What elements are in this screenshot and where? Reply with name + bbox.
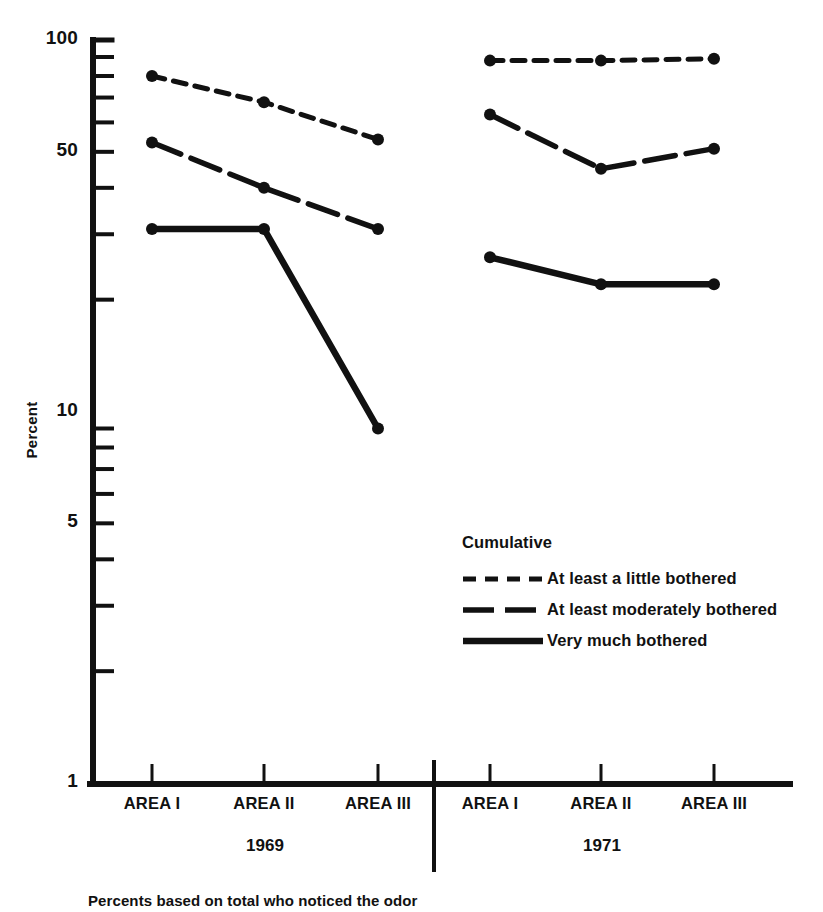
- legend-items: At least a little botheredAt least moder…: [462, 563, 814, 656]
- data-series-group: [146, 53, 720, 435]
- chart-figure: Percent 100501051 AREA IAREA IIAREA IIIA…: [0, 0, 823, 912]
- data-point: [258, 223, 270, 235]
- data-point: [146, 136, 158, 148]
- legend-title: Cumulative: [462, 533, 814, 552]
- data-point: [372, 422, 384, 434]
- data-point: [595, 278, 607, 290]
- legend-swatch-short-dash: [462, 572, 544, 586]
- data-point: [595, 163, 607, 175]
- data-point: [484, 251, 496, 263]
- data-point: [708, 278, 720, 290]
- chart-canvas: [0, 0, 823, 912]
- data-point: [372, 223, 384, 235]
- legend-item-0: At least a little bothered: [462, 563, 814, 594]
- legend-label-1: At least moderately bothered: [547, 600, 777, 619]
- legend-swatch-long-dash: [462, 603, 544, 617]
- y-tick-label-5: 5: [20, 510, 78, 532]
- data-point: [595, 55, 607, 67]
- data-point: [258, 96, 270, 108]
- legend-label-0: At least a little bothered: [547, 569, 737, 588]
- data-point: [146, 70, 158, 82]
- series-line-2-group-0: [152, 229, 378, 429]
- y-tick-label-10: 10: [20, 399, 78, 421]
- x-tick-label-5: AREA III: [654, 794, 774, 813]
- x-tick-label-3: AREA I: [430, 794, 550, 813]
- y-tick-label-50: 50: [20, 139, 78, 161]
- legend-item-1: At least moderately bothered: [462, 594, 814, 625]
- y-tick-label-100: 100: [20, 27, 78, 49]
- legend-item-2: Very much bothered: [462, 625, 814, 656]
- chart-legend: Cumulative At least a little botheredAt …: [462, 533, 814, 656]
- x-tick-label-2: AREA III: [318, 794, 438, 813]
- data-point: [708, 143, 720, 155]
- legend-swatch-solid: [462, 634, 544, 648]
- y-tick-label-1: 1: [20, 770, 78, 792]
- data-point: [484, 109, 496, 121]
- x-tick-label-4: AREA II: [541, 794, 661, 813]
- x-tick-label-0: AREA I: [92, 794, 212, 813]
- data-point: [708, 53, 720, 65]
- year-group-label-1971: 1971: [542, 836, 662, 856]
- data-point: [146, 223, 158, 235]
- data-point: [484, 55, 496, 67]
- chart-footnote: Percents based on total who noticed the …: [88, 892, 417, 909]
- y-axis-label-container: Percent: [16, 360, 46, 500]
- year-group-label-1969: 1969: [205, 836, 325, 856]
- data-point: [258, 182, 270, 194]
- x-tick-label-1: AREA II: [204, 794, 324, 813]
- legend-label-2: Very much bothered: [547, 631, 707, 650]
- series-line-1-group-1: [490, 115, 714, 169]
- data-point: [372, 133, 384, 145]
